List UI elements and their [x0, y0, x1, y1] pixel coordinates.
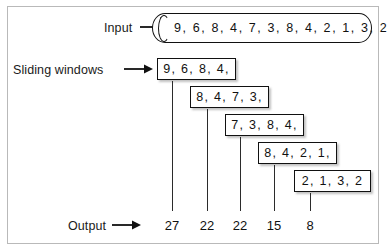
input-stream-values: 9, 6, 8, 4, 7, 3, 8, 4, 2, 1, 3, 2 — [174, 13, 388, 43]
tick-line-1 — [172, 81, 173, 211]
sliding-windows-label: Sliding windows — [13, 63, 103, 77]
output-value-2: 22 — [192, 218, 222, 233]
window-box-4: 8, 4, 2, 1, — [258, 142, 337, 164]
output-value-4: 15 — [259, 218, 289, 233]
input-cylinder: 9, 6, 8, 4, 7, 3, 8, 4, 2, 1, 3, 2 — [152, 13, 372, 43]
window-box-1: 9, 6, 8, 4, — [157, 58, 236, 80]
cylinder-cap — [158, 15, 170, 42]
tick-line-2 — [207, 109, 208, 211]
output-value-5: 8 — [295, 218, 325, 233]
tick-line-5 — [310, 193, 311, 211]
output-value-3: 22 — [225, 218, 255, 233]
window-box-3: 7, 3, 8, 4, — [225, 114, 304, 136]
window-box-5: 2, 1, 3, 2 — [294, 170, 371, 192]
output-label: Output — [68, 219, 106, 233]
tick-line-4 — [274, 165, 275, 211]
arrow-sliding-windows-icon — [124, 63, 154, 75]
output-value-1: 27 — [157, 218, 187, 233]
figure-canvas: Input 9, 6, 8, 4, 7, 3, 8, 4, 2, 1, 3, 2… — [0, 0, 388, 252]
arrow-output-icon — [112, 219, 142, 231]
tick-line-3 — [240, 137, 241, 211]
window-box-2: 8, 4, 7, 3, — [190, 86, 269, 108]
input-label: Input — [104, 21, 132, 35]
